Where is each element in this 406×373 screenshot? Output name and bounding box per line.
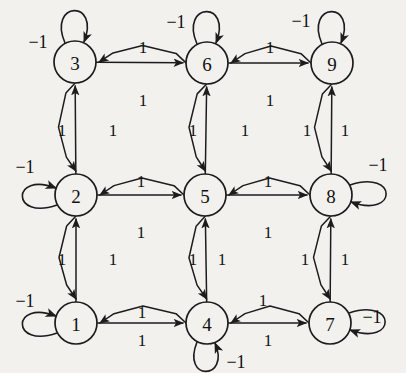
node-label-2: 2 (71, 186, 81, 207)
self-loop-weight-label: −1 (28, 32, 47, 52)
edge-weight-label: 1 (301, 250, 310, 269)
node-label-5: 5 (200, 186, 210, 207)
node-label-7: 7 (325, 314, 335, 335)
edge-weight-label: 1 (138, 303, 147, 322)
edge-weight-label: 1 (139, 91, 148, 110)
self-loop-weight-label: −1 (166, 12, 185, 32)
edge-weight-label: 1 (138, 331, 147, 350)
edge-weight-label: 1 (189, 250, 198, 269)
edge-weight-label: 1 (109, 250, 118, 269)
self-loop-6 (193, 12, 219, 44)
edge-weight-label: 1 (218, 250, 227, 269)
labels-layer: 111111111111111111111111−1−1−1−1−1−1−1−1… (15, 11, 387, 372)
graph-edge (231, 306, 309, 323)
edge-weight-label: 1 (137, 172, 146, 191)
self-loop-4 (194, 342, 218, 371)
self-loop-9 (318, 12, 344, 44)
edge-weight-label: 1 (109, 121, 118, 140)
graph-edge (315, 84, 332, 171)
edge-weight-label: 1 (303, 121, 312, 140)
graph-edge (205, 87, 206, 174)
self-loop-weight-label: −1 (15, 157, 34, 177)
node-label-6: 6 (202, 54, 212, 75)
node-label-9: 9 (327, 54, 337, 75)
edge-weight-label: 1 (137, 223, 146, 242)
edge-weight-label: 1 (264, 172, 273, 191)
self-loop-1 (22, 312, 57, 336)
graph-figure: 111111111111111111111111−1−1−1−1−1−1−1−1… (0, 0, 406, 373)
self-loop-3 (61, 11, 87, 43)
graph-edge (314, 216, 331, 299)
graph-edge (205, 219, 206, 302)
graph-edge (331, 87, 332, 174)
graph-edge (330, 219, 331, 302)
edge-weight-label: 1 (264, 331, 273, 350)
edge-weight-label: 1 (341, 250, 350, 269)
edge-weight-label: 1 (139, 38, 148, 57)
self-loop-8 (350, 182, 386, 206)
self-loop-weight-label: −1 (291, 11, 310, 31)
graph-edge (75, 86, 76, 174)
edge-weight-label: 1 (266, 91, 275, 110)
self-loop-2 (22, 184, 57, 208)
node-label-8: 8 (326, 186, 336, 207)
self-loop-weight-label: −1 (368, 155, 387, 175)
edge-weight-label: 1 (266, 38, 275, 57)
node-label-4: 4 (202, 314, 212, 335)
self-loop-weight-label: −1 (226, 352, 245, 372)
node-label-3: 3 (70, 53, 80, 74)
edge-weight-label: 1 (341, 121, 350, 140)
self-loop-weight-label: −1 (362, 307, 381, 327)
graph-edge (96, 62, 183, 63)
node-label-1: 1 (71, 314, 81, 335)
edge-weight-label: 1 (189, 121, 198, 140)
edge-weight-label: 1 (58, 121, 67, 140)
self-loop-weight-label: −1 (15, 291, 34, 311)
edge-weight-label: 1 (259, 291, 268, 310)
edge-weight-label: 1 (58, 250, 67, 269)
edge-weight-label: 1 (241, 121, 250, 140)
graph-canvas: 111111111111111111111111−1−1−1−1−1−1−1−1… (0, 0, 406, 373)
edge-weight-label: 1 (264, 223, 273, 242)
